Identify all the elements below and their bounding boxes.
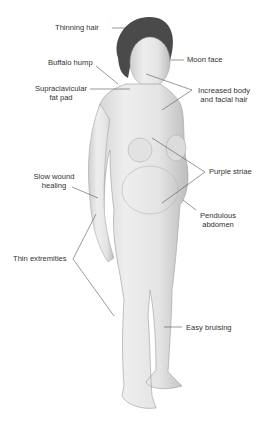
label-increased-hair-line1: Increased body	[194, 86, 254, 95]
label-slow-wound-line1: Slow wound	[32, 172, 76, 181]
label-slow-wound: Slow wound healing	[32, 172, 76, 190]
label-easy-bruising: Easy bruising	[186, 323, 232, 332]
label-thin-extremities: Thin extremities	[13, 254, 67, 263]
figure-stage: Thinning hair Moon face Buffalo hump Sup…	[0, 0, 265, 424]
label-purple-striae: Purple striae	[209, 167, 252, 176]
head	[130, 37, 170, 87]
label-supraclavicular-line2: fat pad	[33, 93, 89, 102]
label-increased-hair-line2: and facial hair	[194, 95, 254, 104]
label-supraclavicular: Supraclavicular fat pad	[33, 84, 89, 102]
label-moon-face: Moon face	[187, 55, 222, 64]
label-pendulous-line1: Pendulous	[196, 211, 240, 220]
label-pendulous: Pendulous abdomen	[196, 211, 240, 229]
label-slow-wound-line2: healing	[32, 181, 76, 190]
label-increased-hair: Increased body and facial hair	[194, 86, 254, 104]
breast-left	[128, 138, 152, 162]
label-buffalo-hump: Buffalo hump	[48, 58, 93, 67]
label-pendulous-line2: abdomen	[196, 220, 240, 229]
label-supraclavicular-line1: Supraclavicular	[33, 84, 89, 93]
breast-right	[166, 135, 186, 161]
label-thinning-hair: Thinning hair	[55, 23, 99, 32]
